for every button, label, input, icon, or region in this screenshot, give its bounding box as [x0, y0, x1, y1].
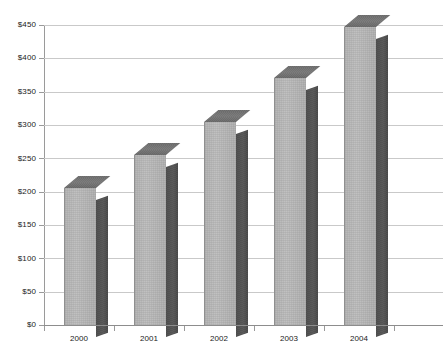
- bar-top-face: [64, 176, 110, 188]
- bar-2004: [344, 27, 376, 325]
- x-axis-line: [44, 325, 443, 326]
- bar-chart: $450 $400 $350 $300 $250 $200 $150 $100 …: [0, 0, 443, 351]
- gridline: [44, 25, 443, 26]
- x-axis-tick: [114, 326, 115, 331]
- y-axis-tick-label: $250: [0, 155, 36, 163]
- x-axis-tick: [394, 326, 395, 331]
- bar-front-face: [134, 155, 166, 325]
- y-axis-tick-label: $100: [0, 255, 36, 263]
- bar-side-face: [236, 130, 248, 337]
- bar-top-face: [134, 143, 180, 155]
- x-axis-tick-label: 2002: [189, 334, 249, 343]
- bar-top-face: [204, 110, 250, 122]
- x-axis-tick-label: 2004: [329, 334, 389, 343]
- x-axis-tick: [184, 326, 185, 331]
- bar-front-face: [344, 27, 376, 325]
- y-axis-tick-label: $400: [0, 54, 36, 62]
- y-axis-tick-label: $150: [0, 221, 36, 229]
- bar-front-face: [204, 122, 236, 325]
- bar-front-face: [274, 78, 306, 325]
- bar-2000: [64, 188, 96, 325]
- y-axis-tick-label: $0: [0, 321, 36, 329]
- bar-2002: [204, 122, 236, 325]
- x-axis-tick-label: 2001: [119, 334, 179, 343]
- y-axis-tick-label: $450: [0, 21, 36, 29]
- y-axis-tick-label: $300: [0, 121, 36, 129]
- bar-side-face: [376, 35, 388, 337]
- bar-2001: [134, 155, 166, 325]
- x-axis-tick: [44, 326, 45, 331]
- y-axis-tick-label: $350: [0, 88, 36, 96]
- bar-top-face: [274, 66, 320, 78]
- plot-area: [44, 25, 443, 325]
- caption-fragment: [0, 345, 443, 351]
- y-axis-labels: $450 $400 $350 $300 $250 $200 $150 $100 …: [0, 0, 36, 351]
- y-axis-tick-label: $50: [0, 288, 36, 296]
- x-axis-tick-label: 2000: [49, 334, 109, 343]
- y-axis-tick-label: $200: [0, 188, 36, 196]
- x-axis-tick: [254, 326, 255, 331]
- bar-2003: [274, 78, 306, 325]
- bar-side-face: [166, 163, 178, 337]
- bar-front-face: [64, 188, 96, 325]
- x-axis-tick-label: 2003: [259, 334, 319, 343]
- x-axis-tick: [324, 326, 325, 331]
- bar-side-face: [96, 196, 108, 337]
- bar-side-face: [306, 86, 318, 337]
